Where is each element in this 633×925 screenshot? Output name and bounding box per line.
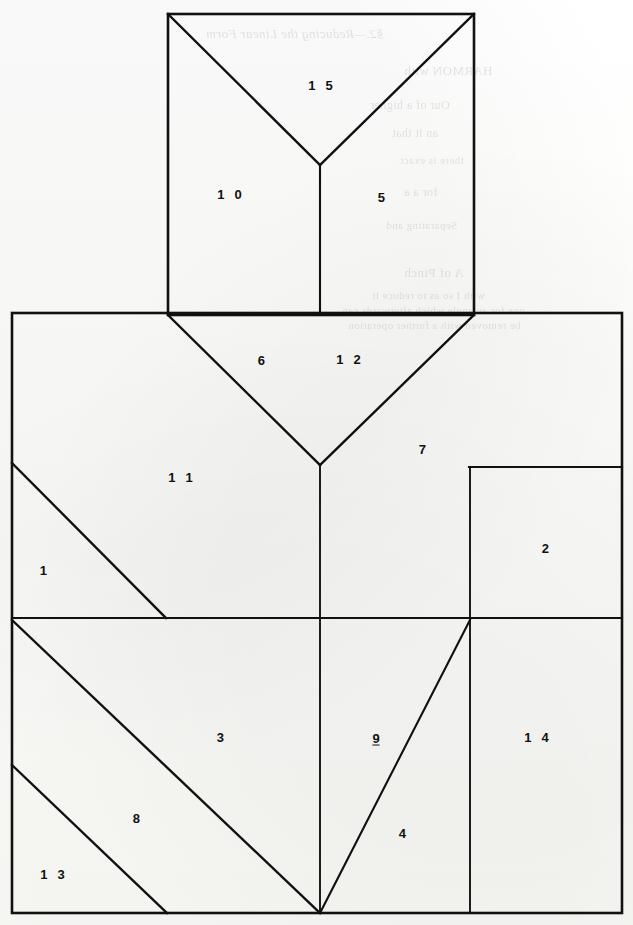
region-label-3: 3 — [217, 730, 227, 745]
region-label-14: 1 4 — [524, 730, 552, 745]
cut-diag-region-1 — [12, 463, 166, 618]
region-label-5: 5 — [378, 190, 388, 205]
region-label-1: 1 — [40, 563, 50, 578]
region-label-12: 1 2 — [336, 352, 364, 367]
region-label-6: 6 — [258, 353, 268, 368]
cut-diag-region-13 — [12, 765, 167, 913]
region-label-7: 7 — [419, 442, 429, 457]
region-label-2: 2 — [542, 541, 552, 556]
region-label-11: 1 1 — [168, 470, 196, 485]
region-label-8: 8 — [133, 811, 143, 826]
cut-main-v-left — [168, 315, 320, 465]
region-label-4: 4 — [399, 826, 409, 841]
main-rectangle-outline — [12, 313, 622, 913]
cut-top-box-v-right — [320, 14, 474, 165]
region-label-15: 1 5 — [308, 78, 336, 93]
line-drawing — [0, 0, 633, 925]
cut-top-box-v-left — [168, 14, 320, 165]
region-label-13: 1 3 — [40, 867, 68, 882]
region-label-9: 9 — [372, 731, 379, 746]
region-label-10: 1 0 — [217, 187, 245, 202]
dissection-figure: §2.—Reducing the Linear FormHARMON withO… — [0, 0, 633, 925]
cut-main-v-right — [320, 315, 474, 465]
cut-diag-region-9-4 — [320, 620, 470, 913]
cut-lines-group — [12, 14, 622, 913]
